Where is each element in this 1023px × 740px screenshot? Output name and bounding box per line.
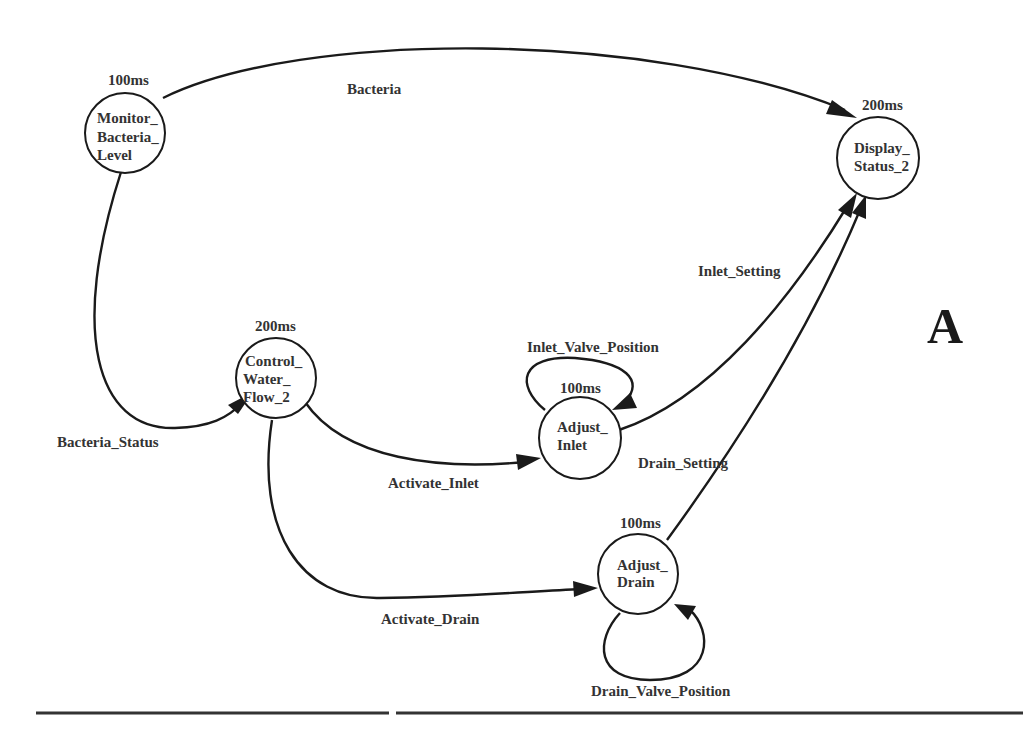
node-label-line: Display_ — [854, 140, 910, 156]
node-label-line: Bacteria_ — [97, 129, 159, 145]
node-label-line: Level — [97, 147, 132, 163]
node-label-line: Water_ — [243, 371, 291, 387]
node-monitor-bacteria-level: 100ms Monitor_ Bacteria_ Level — [85, 72, 165, 173]
edge-label-drain-setting: Drain_Setting — [638, 455, 729, 471]
edge-label-inlet-setting: Inlet_Setting — [698, 263, 781, 279]
node-adjust-drain: 100ms Adjust_ Drain — [598, 515, 678, 614]
node-period: 100ms — [108, 72, 149, 88]
edge-label-activate-inlet: Activate_Inlet — [388, 475, 479, 491]
edge-drain-setting: Drain_Setting — [638, 195, 866, 540]
edge-label-inlet-valve-position: Inlet_Valve_Position — [527, 339, 660, 355]
edge-label-activate-drain: Activate_Drain — [381, 611, 480, 627]
edge-bacteria: Bacteria — [163, 48, 857, 118]
edge-label-bacteria: Bacteria — [347, 81, 402, 97]
node-label-line: Inlet — [557, 437, 587, 453]
node-display-status-2: 200ms Display_ Status_2 — [837, 97, 919, 199]
node-label-line: Status_2 — [854, 158, 909, 174]
node-label-line: Adjust_ — [557, 419, 608, 435]
edge-label-drain-valve-position: Drain_Valve_Position — [591, 683, 731, 699]
node-label-line: Adjust_ — [617, 557, 668, 573]
node-control-water-flow-2: 200ms Control_ Water_ Flow_2 — [236, 318, 316, 418]
node-label-line: Drain — [617, 574, 655, 590]
arrowhead-icon — [612, 393, 637, 410]
edge-label-bacteria-status: Bacteria_Status — [57, 434, 159, 450]
arrowhead-icon — [826, 100, 857, 118]
arrowhead-icon — [838, 193, 857, 218]
dataflow-diagram: Bacteria Bacteria_Status Activate_Inlet … — [0, 0, 1023, 740]
node-period: 200ms — [862, 97, 903, 113]
edge-inlet-setting: Inlet_Setting — [619, 193, 857, 430]
edge-drain-valve-position: Drain_Valve_Position — [591, 604, 731, 699]
edge-bacteria-status: Bacteria_Status — [57, 172, 253, 450]
node-period: 200ms — [255, 318, 296, 334]
arrowhead-icon — [516, 454, 541, 470]
node-period: 100ms — [620, 515, 661, 531]
arrowhead-icon — [573, 581, 598, 597]
node-period: 100ms — [560, 380, 601, 396]
node-adjust-inlet: 100ms Adjust_ Inlet — [539, 380, 621, 479]
node-label-line: Control_ — [245, 353, 303, 369]
edge-activate-inlet: Activate_Inlet — [305, 402, 541, 491]
node-label-line: Monitor_ — [97, 110, 158, 126]
panel-letter: A — [927, 298, 963, 354]
node-label-line: Flow_2 — [243, 389, 290, 405]
